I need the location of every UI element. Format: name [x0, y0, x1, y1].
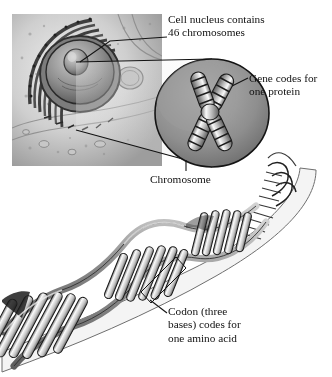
biology-diagram: Cell nucleus contains 46 chromosomes Gen…	[0, 0, 332, 377]
label-chromosome: Chromosome	[150, 173, 211, 186]
label-gene: Gene codes for one protein	[249, 72, 317, 99]
label-codon: Codon (three bases) codes for one amino …	[168, 305, 241, 345]
label-cell-nucleus: Cell nucleus contains 46 chromosomes	[168, 13, 265, 40]
diagram-artwork	[0, 0, 332, 377]
